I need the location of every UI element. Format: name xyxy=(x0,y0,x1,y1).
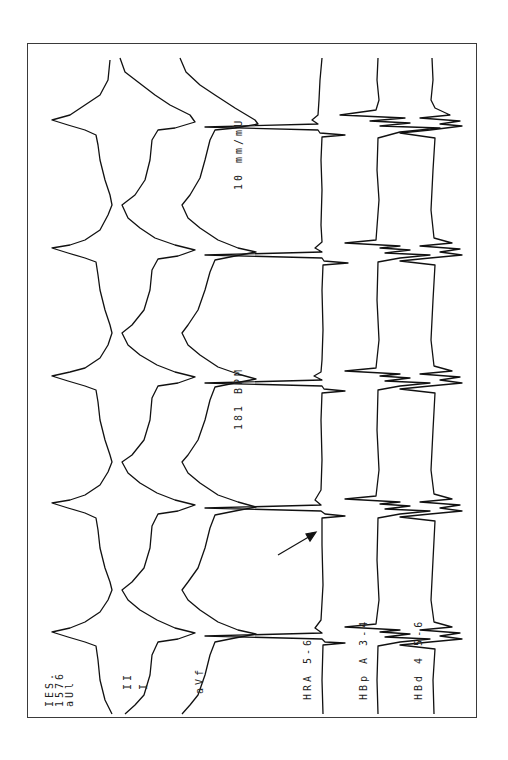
waveform-traces xyxy=(0,0,508,760)
electrogram-figure: IES. 1576 aUl I II aVf 181 BPM 10 mm/mU … xyxy=(0,0,508,760)
hra-label: HRA 5-6 xyxy=(302,637,313,700)
hbd-trace xyxy=(400,58,462,714)
lead-avf-trace xyxy=(180,58,258,714)
header-label-line3: aUl xyxy=(64,680,75,707)
rate-label: 181 BPM xyxy=(233,367,244,430)
hbp-label: HBp A 3-4 xyxy=(358,619,369,700)
lead-i-trace xyxy=(52,60,112,714)
hra-trace xyxy=(205,58,348,714)
lead-i-label: I xyxy=(138,681,149,690)
scale-label: 10 mm/mU xyxy=(233,118,244,190)
lead-avf-label: aVf xyxy=(194,667,205,694)
hbd-label: HBd 4 5-6 xyxy=(413,619,424,700)
lead-ii-label: II xyxy=(122,672,133,690)
arrow-annotation xyxy=(278,532,316,555)
lead-ii-trace xyxy=(120,58,195,714)
